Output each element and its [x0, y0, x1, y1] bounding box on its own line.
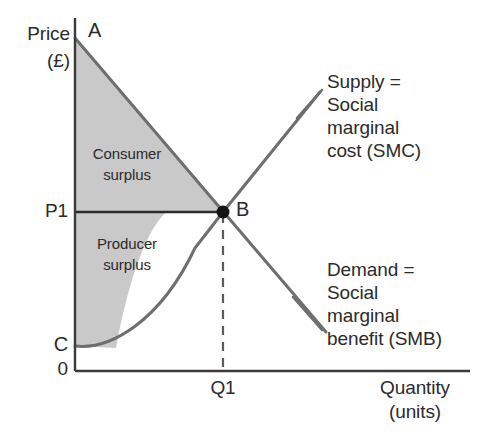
price-tick-label-p1: P1	[10, 200, 68, 221]
producer-surplus-area	[75, 201, 223, 348]
point-label-c: C	[38, 334, 68, 355]
y-axis-label-currency: (£)	[0, 50, 70, 71]
point-label-b: B	[236, 199, 249, 220]
x-axis-label-quantity: Quantity	[355, 377, 475, 398]
y-axis-label-price: Price	[0, 23, 70, 44]
supply-demand-diagram: Price (£) Quantity (units) 0 A C B P1 Q1…	[0, 0, 481, 444]
demand-label-leader	[293, 297, 322, 330]
origin-label: 0	[38, 358, 68, 379]
x-axis-label-units: (units)	[355, 401, 475, 422]
consumer-surplus-label-line2: surplus	[77, 166, 177, 183]
consumer-surplus-label-line1: Consumer	[77, 145, 177, 162]
quantity-tick-label-q1: Q1	[193, 377, 253, 398]
point-label-a: A	[88, 20, 101, 41]
supply-curve-annotation: Supply = Social marginal cost (SMC)	[327, 70, 477, 162]
producer-surplus-label-line1: Producer	[77, 235, 177, 252]
equilibrium-point-marker	[217, 206, 230, 219]
producer-surplus-label-line2: surplus	[77, 256, 177, 273]
supply-label-leader	[297, 90, 322, 118]
demand-curve-annotation: Demand = Social marginal benefit (SMB)	[327, 258, 477, 350]
